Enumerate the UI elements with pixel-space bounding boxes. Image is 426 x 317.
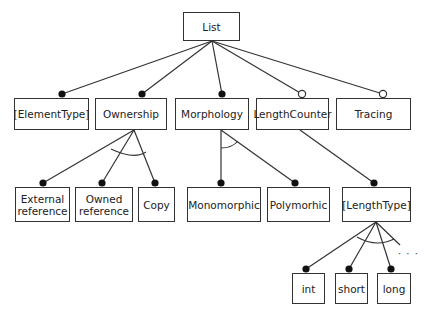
mandatory-marker-icon xyxy=(58,90,65,97)
feature-node-lengthcounter: LengthCounter xyxy=(256,98,329,130)
mandatory-marker-icon xyxy=(138,90,145,97)
edge-list-ownership xyxy=(138,41,212,98)
alternative-group-arc-ownership xyxy=(111,149,146,155)
feature-label: [LengthType] xyxy=(342,199,411,211)
mandatory-marker-icon xyxy=(39,179,46,186)
feature-node-lengthtype: [LengthType] xyxy=(342,187,411,222)
edge-list-tracing xyxy=(212,41,387,98)
optional-marker-icon xyxy=(298,90,305,97)
mandatory-marker-icon xyxy=(345,265,352,272)
mandatory-marker-icon xyxy=(302,265,309,272)
feature-node-list: List xyxy=(183,12,240,41)
feature-node-long: long xyxy=(377,273,411,304)
feature-label: Copy xyxy=(143,199,170,211)
edge-list-lengthcounter xyxy=(212,41,306,98)
feature-node-morphology: Morphology xyxy=(175,98,249,130)
feature-label: LengthCounter xyxy=(253,108,331,120)
more-alternatives-ellipsis: · · · xyxy=(398,248,419,259)
feature-label: [ElementType] xyxy=(14,108,90,120)
edge-lengthtype-long xyxy=(376,222,395,273)
edge-lengthcounter-lengthtype xyxy=(300,130,378,187)
feature-label: External reference xyxy=(16,193,69,217)
feature-label: int xyxy=(302,283,316,295)
mandatory-marker-icon xyxy=(151,179,158,186)
feature-node-copy: Copy xyxy=(138,187,175,222)
feature-diagram: List[ElementType]OwnershipMorphologyLeng… xyxy=(0,0,426,317)
mandatory-marker-icon xyxy=(218,90,225,97)
alternative-group-arc-morphology xyxy=(221,141,238,148)
feature-node-monomorphic: Monomorphic xyxy=(187,187,261,222)
edge-ownership-copy xyxy=(134,130,159,187)
edge-morphology-polymorhic xyxy=(221,130,299,187)
feature-node-int: int xyxy=(292,273,325,304)
mandatory-marker-icon xyxy=(98,179,105,186)
feature-node-polymorhic: Polymorhic xyxy=(267,187,330,222)
mandatory-marker-icon xyxy=(217,179,224,186)
feature-label: Monomorphic xyxy=(188,199,260,211)
feature-node-owned: Owned reference xyxy=(75,187,133,222)
edge-ownership-owned xyxy=(98,130,134,187)
feature-label: Ownership xyxy=(103,108,159,120)
edge-morphology-monomorphic xyxy=(217,130,224,187)
feature-label: Morphology xyxy=(181,108,243,120)
edge-lengthtype-int xyxy=(302,222,376,273)
feature-node-external: External reference xyxy=(15,187,70,222)
edge-list-morphology xyxy=(212,41,226,98)
optional-marker-icon xyxy=(379,90,386,97)
mandatory-marker-icon xyxy=(387,265,394,272)
feature-label: Owned reference xyxy=(76,193,132,217)
diagram-edges xyxy=(0,0,426,317)
feature-node-ownership: Ownership xyxy=(95,98,167,130)
edge-list-elementtype xyxy=(58,41,212,98)
alternative-group-arc-lengthtype xyxy=(357,237,394,243)
edge-ownership-external xyxy=(39,130,134,187)
mandatory-marker-icon xyxy=(370,179,377,186)
feature-label: Tracing xyxy=(355,108,393,120)
feature-label: short xyxy=(338,283,365,295)
feature-label: List xyxy=(202,21,220,33)
feature-node-tracing: Tracing xyxy=(336,98,411,130)
mandatory-marker-icon xyxy=(291,179,298,186)
feature-label: Polymorhic xyxy=(270,199,328,211)
feature-label: long xyxy=(383,283,406,295)
feature-node-short: short xyxy=(335,273,368,304)
edge-lengthtype-short xyxy=(345,222,376,273)
feature-node-elementtype: [ElementType] xyxy=(14,98,89,130)
